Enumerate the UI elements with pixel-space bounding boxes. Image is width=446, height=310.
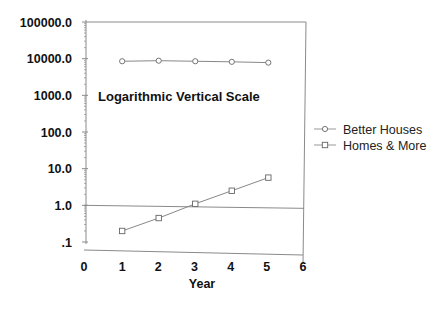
y-tick-label: 100000.0 — [20, 16, 72, 30]
y-tick-label: 1000.0 — [34, 89, 72, 103]
square-marker-icon — [266, 175, 271, 180]
legend-square-icon — [322, 142, 327, 147]
log-line-chart: 100000.010000.01000.0100.010.01.0.1 0123… — [0, 0, 446, 310]
y-tick-label: 10.0 — [48, 162, 72, 176]
legend-circle-icon — [322, 126, 327, 131]
x-tick-label: 6 — [300, 260, 307, 274]
legend-label: Better Houses — [343, 123, 422, 137]
y-axis: 100000.010000.01000.0100.010.01.0.1 — [20, 16, 88, 250]
circle-marker-icon — [120, 59, 125, 64]
x-tick-label: 1 — [119, 260, 126, 274]
square-marker-icon — [229, 188, 234, 193]
legend-label: Homes & More — [343, 139, 426, 153]
y-tick-label: 1.0 — [55, 199, 72, 213]
square-marker-icon — [156, 215, 161, 220]
x-axis-line — [84, 250, 303, 255]
y-tick-label: 100.0 — [41, 126, 72, 140]
circle-marker-icon — [229, 59, 234, 64]
series-better-houses — [120, 58, 271, 65]
circle-marker-icon — [156, 58, 161, 63]
x-tick-label: 5 — [263, 260, 270, 274]
series-homes-more — [119, 175, 271, 234]
frame-right — [303, 22, 306, 264]
x-axis: 0123456 — [81, 260, 307, 274]
x-axis-label: Year — [189, 277, 216, 291]
x-tick-label: 0 — [81, 260, 88, 274]
circle-marker-icon — [193, 59, 198, 64]
legend: Better HousesHomes & More — [314, 123, 426, 153]
x-tick-label: 3 — [191, 260, 198, 274]
square-marker-icon — [193, 201, 198, 206]
y-tick-label: .1 — [62, 236, 72, 250]
chart-title: Logarithmic Vertical Scale — [98, 89, 260, 104]
x-tick-label: 2 — [155, 260, 162, 274]
square-marker-icon — [119, 228, 124, 233]
y-tick-label: 10000.0 — [27, 52, 72, 66]
circle-marker-icon — [266, 60, 271, 65]
x-tick-label: 4 — [227, 260, 234, 274]
